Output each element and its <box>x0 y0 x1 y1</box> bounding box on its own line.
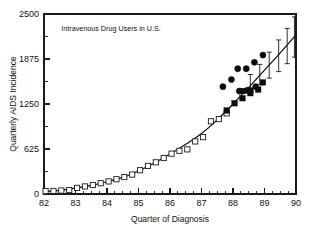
y-tick-label: 1875 <box>19 54 39 64</box>
data-point-open-square <box>145 163 150 168</box>
x-axis-title: Quarter of Diagnosis <box>131 214 209 224</box>
data-point-open-square <box>67 187 72 192</box>
data-point-open-square <box>82 184 87 189</box>
x-tick-label: 85 <box>133 198 143 208</box>
data-point-open-square <box>130 172 135 177</box>
error-bar <box>248 74 253 88</box>
data-point-filled-circle <box>235 66 241 72</box>
x-axis-major-ticks <box>44 188 296 194</box>
x-tick-label: 89 <box>259 198 269 208</box>
y-tick-label: 1250 <box>19 99 39 109</box>
y-axis-title: Quarterly AIDS Incidence <box>8 56 18 152</box>
data-point-open-square <box>193 139 198 144</box>
data-point-open-square <box>185 147 190 152</box>
data-point-open-square <box>208 119 213 124</box>
x-tick-label: 88 <box>228 198 238 208</box>
data-point-filled-circle <box>236 88 242 94</box>
data-point-open-square <box>161 155 166 160</box>
fitted-trend-curve <box>44 35 296 192</box>
series-observed-open-squares <box>43 111 229 194</box>
error-bar <box>285 28 290 63</box>
data-point-open-square <box>51 188 56 193</box>
data-point-open-square <box>43 189 48 194</box>
x-axis-tick-labels: 828384858687888990 <box>39 198 301 208</box>
data-point-open-square <box>216 117 221 122</box>
data-point-open-square <box>98 181 103 186</box>
data-point-open-square <box>200 135 205 140</box>
y-axis-major-ticks <box>44 14 50 194</box>
x-tick-label: 83 <box>70 198 80 208</box>
data-point-filled-circle <box>260 52 266 58</box>
data-point-open-square <box>106 179 111 184</box>
data-point-filled-circle <box>253 84 259 90</box>
data-point-filled-circle <box>244 87 250 93</box>
data-point-open-square <box>114 177 119 182</box>
data-point-open-square <box>122 174 127 179</box>
data-point-filled-circle <box>228 76 234 82</box>
data-point-filled-circle <box>251 59 257 65</box>
x-tick-label: 87 <box>196 198 206 208</box>
data-point-open-square <box>177 148 182 153</box>
data-point-open-square <box>169 151 174 156</box>
data-point-filled-circle <box>220 84 226 90</box>
aids-incidence-figure: 0625125018752500 828384858687888990 Intr… <box>0 0 311 242</box>
x-tick-label: 86 <box>165 198 175 208</box>
data-point-open-square <box>153 160 158 165</box>
data-point-open-square <box>59 188 64 193</box>
y-axis-tick-labels: 0625125018752500 <box>19 9 39 199</box>
data-point-open-square <box>74 185 79 190</box>
x-tick-label: 90 <box>291 198 301 208</box>
chart-canvas: 0625125018752500 828384858687888990 Intr… <box>0 0 311 242</box>
plot-frame <box>44 14 296 194</box>
data-point-filled-circle <box>243 66 249 72</box>
data-point-filled-square <box>224 108 230 114</box>
data-point-filled-square <box>232 100 238 106</box>
data-point-open-square <box>137 168 142 173</box>
x-tick-label: 82 <box>39 198 49 208</box>
data-point-filled-square <box>240 95 246 101</box>
data-point-filled-square <box>260 80 266 86</box>
panel-title: Intravenous Drug Users in U.S. <box>61 24 160 33</box>
error-bar <box>267 52 272 78</box>
data-point-open-square <box>90 182 95 187</box>
y-tick-label: 2500 <box>19 9 39 19</box>
y-tick-label: 625 <box>24 144 39 154</box>
x-tick-label: 84 <box>102 198 112 208</box>
error-bars <box>248 17 297 89</box>
